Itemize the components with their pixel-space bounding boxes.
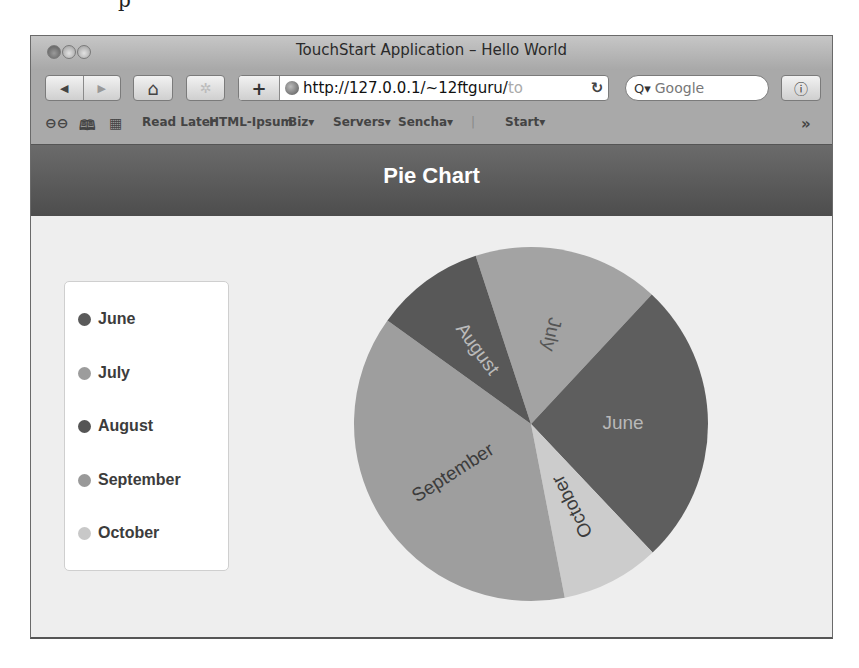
info-icon: ⓘ (794, 78, 808, 98)
reading-list-icon[interactable]: ⊖⊖ (45, 115, 68, 131)
bookmarks-overflow-icon[interactable]: » (801, 115, 811, 133)
bookmark-separator: | (471, 115, 475, 129)
bookmark-read-later[interactable]: Read Later (142, 115, 216, 129)
app-content: Pie Chart June July August September Oct… (31, 144, 832, 637)
home-button[interactable]: ⌂ (133, 75, 173, 101)
address-bar[interactable]: + http://127.0.0.1/~12ftguru/to ↻ (238, 75, 609, 101)
info-button[interactable]: ⓘ (781, 75, 821, 101)
bookmark-sencha[interactable]: Sencha▾ (398, 115, 453, 129)
url-text: http://127.0.0.1/~12ftguru/ (303, 79, 508, 97)
pie-slice-label: June (602, 412, 643, 433)
search-icon: Q▾ (634, 81, 651, 96)
url-faded-text: to (508, 79, 523, 97)
top-sites-grid-icon[interactable]: ▦ (109, 115, 122, 131)
back-forward-buttons: ◀ ▶ (45, 75, 121, 101)
book-page-fragment: p (118, 0, 131, 12)
forward-button[interactable]: ▶ (84, 82, 121, 95)
home-icon: ⌂ (147, 78, 158, 99)
search-placeholder: Google (655, 80, 704, 96)
bookmarks-bar: ⊖⊖ 🕮 ▦ Read Later HTML-Ipsum Biz▾ Server… (31, 106, 832, 142)
url-input[interactable]: http://127.0.0.1/~12ftguru/to (303, 79, 586, 97)
browser-window: TouchStart Application – Hello World ◀ ▶… (30, 35, 833, 639)
bookmark-servers[interactable]: Servers▾ (333, 115, 391, 129)
reload-icon[interactable]: ↻ (586, 79, 608, 97)
pie-chart: JulyJuneOctoberSeptemberAugust (31, 144, 832, 638)
add-bookmark-button[interactable]: + (239, 76, 280, 100)
bookmark-start[interactable]: Start▾ (505, 115, 545, 129)
title-bar: TouchStart Application – Hello World (31, 36, 832, 70)
snippet-icon: ✲ (200, 80, 212, 96)
book-icon[interactable]: 🕮 (79, 115, 96, 139)
plus-icon: + (251, 78, 266, 99)
window-title: TouchStart Application – Hello World (31, 41, 832, 59)
back-button[interactable]: ◀ (46, 82, 83, 95)
disabled-toolbar-button[interactable]: ✲ (186, 75, 225, 101)
bookmark-html-ipsum[interactable]: HTML-Ipsum (209, 115, 293, 129)
bookmark-biz[interactable]: Biz▾ (288, 115, 314, 129)
search-field[interactable]: Q▾ Google (625, 75, 769, 101)
globe-icon (285, 81, 299, 95)
